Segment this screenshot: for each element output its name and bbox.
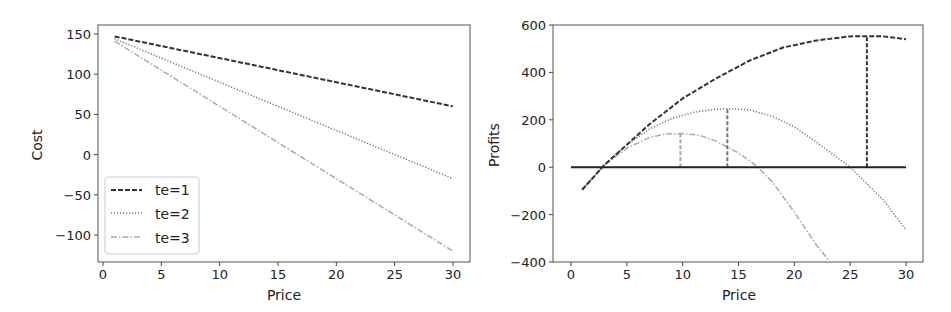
- profits-y-axis-label: Profits: [486, 123, 502, 167]
- cost-y-ticks: −100−50050100150: [55, 27, 98, 243]
- y-tick-label: 400: [521, 65, 546, 80]
- x-tick-label: 10: [211, 267, 228, 282]
- x-tick-label: 0: [99, 267, 107, 282]
- legend-label-te1: te=1: [155, 182, 190, 198]
- x-tick-label: 20: [328, 267, 345, 282]
- y-tick-label: 100: [66, 67, 91, 82]
- profits-plot-frame: [553, 25, 923, 262]
- x-tick-label: 5: [157, 267, 165, 282]
- x-tick-label: 30: [898, 267, 915, 282]
- profits-chart: 051015202530 −400−2000200400600 Price Pr…: [486, 18, 923, 303]
- cost-y-axis-label: Cost: [29, 129, 45, 161]
- cost-legend: te=1 te=2 te=3: [105, 177, 199, 254]
- cost-x-ticks: 051015202530: [99, 262, 461, 282]
- y-tick-label: −50: [64, 188, 91, 203]
- figure: 051015202530 −100−50050100150 Price Cost…: [0, 0, 951, 312]
- x-tick-label: 20: [786, 267, 803, 282]
- x-tick-label: 0: [567, 267, 575, 282]
- y-tick-label: 50: [74, 107, 91, 122]
- profits-y-ticks: −400−2000200400600: [510, 18, 553, 270]
- x-tick-label: 10: [674, 267, 691, 282]
- legend-label-te3: te=3: [155, 230, 190, 246]
- x-tick-label: 15: [270, 267, 287, 282]
- y-tick-label: −200: [510, 208, 546, 223]
- y-tick-label: 150: [66, 27, 91, 42]
- cost-chart: 051015202530 −100−50050100150 Price Cost…: [29, 25, 470, 303]
- x-tick-label: 25: [386, 267, 403, 282]
- y-tick-label: 200: [521, 113, 546, 128]
- y-tick-label: 600: [521, 18, 546, 33]
- cost-x-axis-label: Price: [267, 287, 301, 303]
- x-tick-label: 30: [445, 267, 462, 282]
- x-tick-label: 25: [842, 267, 859, 282]
- profits-x-ticks: 051015202530: [567, 262, 914, 282]
- y-tick-label: −400: [510, 255, 546, 270]
- x-tick-label: 5: [623, 267, 631, 282]
- profits-x-axis-label: Price: [722, 287, 756, 303]
- y-tick-label: 0: [538, 160, 546, 175]
- x-tick-label: 15: [730, 267, 747, 282]
- y-tick-label: 0: [83, 148, 91, 163]
- legend-label-te2: te=2: [155, 206, 190, 222]
- y-tick-label: −100: [55, 228, 91, 243]
